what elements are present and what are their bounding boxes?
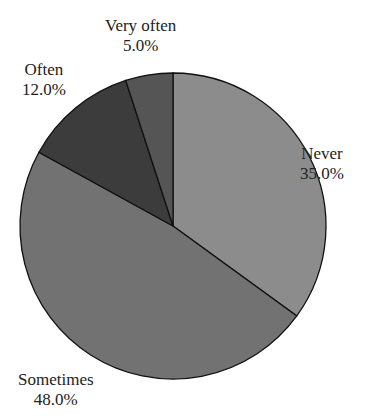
label-sometimes: Sometimes 48.0%	[18, 370, 94, 410]
label-often-name: Often	[22, 60, 66, 80]
label-never-pct: 35.0%	[300, 164, 344, 184]
label-very-often: Very often 5.0%	[105, 16, 176, 56]
label-sometimes-pct: 48.0%	[18, 390, 94, 410]
label-often: Often 12.0%	[22, 60, 66, 100]
label-never-name: Never	[300, 144, 344, 164]
label-sometimes-name: Sometimes	[18, 370, 94, 390]
label-very-often-pct: 5.0%	[105, 36, 176, 56]
label-never: Never 35.0%	[300, 144, 344, 184]
label-often-pct: 12.0%	[22, 80, 66, 100]
label-very-often-name: Very often	[105, 16, 176, 36]
